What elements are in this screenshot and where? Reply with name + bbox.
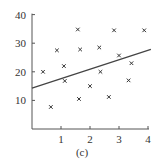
y-tick-label: 20: [15, 66, 27, 78]
data-point-x-marker: [142, 29, 146, 33]
data-point-x-marker: [78, 48, 82, 52]
x-tick-label: 2: [87, 133, 93, 145]
data-point-x-marker: [88, 84, 92, 88]
data-point-x-marker: [97, 46, 101, 50]
x-tick-label: 4: [145, 133, 151, 145]
x-tick-label: 3: [116, 133, 122, 145]
fit-line: [32, 49, 151, 88]
y-tick-label: 30: [15, 37, 27, 49]
data-point-x-marker: [62, 64, 66, 68]
y-tick-label: 10: [15, 94, 27, 106]
data-point-x-marker: [99, 70, 103, 74]
y-tick-label: 40: [15, 9, 27, 21]
x-tick-labels: 1234: [58, 133, 151, 145]
data-point-x-marker: [107, 95, 111, 99]
data-point-x-marker: [130, 61, 134, 65]
data-point-x-marker: [55, 49, 59, 53]
caption: (c): [76, 146, 89, 159]
data-point-x-marker: [127, 79, 131, 83]
data-point-x-marker: [76, 28, 80, 32]
data-point-x-marker: [49, 105, 53, 109]
scatter-chart: 10203040 1234 (c): [0, 0, 163, 168]
data-point-x-marker: [117, 54, 121, 58]
axes: [32, 14, 149, 129]
data-point-x-marker: [63, 79, 67, 83]
data-point-x-marker: [112, 29, 116, 33]
data-point-x-marker: [77, 97, 81, 101]
data-point-x-marker: [41, 70, 45, 74]
y-tick-labels: 10203040: [15, 9, 27, 107]
x-tick-label: 1: [58, 133, 64, 145]
